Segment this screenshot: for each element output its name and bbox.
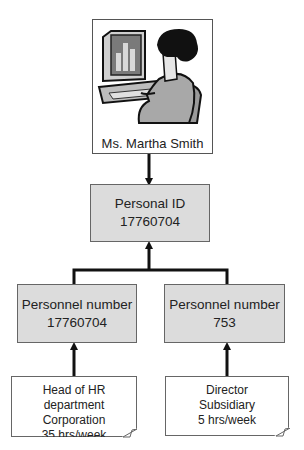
personal-id-label: Personal ID <box>115 195 186 213</box>
personal-id-box: Personal ID 17760704 <box>90 184 210 242</box>
note-role: Head of HR department <box>12 383 136 413</box>
note-hours: 5 hrs/week <box>198 413 256 428</box>
personnel-number-box-1: Personnel number 17760704 <box>17 284 137 343</box>
personal-id-value: 17760704 <box>120 213 180 231</box>
assignment-note-1: Head of HR department Corporation 35 hrs… <box>11 376 137 437</box>
folded-corner-icon <box>275 428 291 437</box>
personnel-number-value: 753 <box>213 314 236 332</box>
person-card: Ms. Martha Smith <box>92 19 213 154</box>
personnel-number-box-2: Personnel number 753 <box>164 284 285 343</box>
person-at-computer-icon <box>97 23 209 131</box>
personnel-number-label: Personnel number <box>22 296 132 314</box>
personnel-number-value: 17760704 <box>47 314 107 332</box>
note-company: Subsidiary <box>199 398 255 413</box>
folded-corner-icon <box>122 429 138 438</box>
assignment-note-2: Director Subsidiary 5 hrs/week <box>165 376 289 436</box>
note-company: Corporation <box>43 413 106 428</box>
personnel-number-label: Personnel number <box>169 296 279 314</box>
note-role: Director <box>206 383 248 398</box>
person-name: Ms. Martha Smith <box>93 136 212 151</box>
